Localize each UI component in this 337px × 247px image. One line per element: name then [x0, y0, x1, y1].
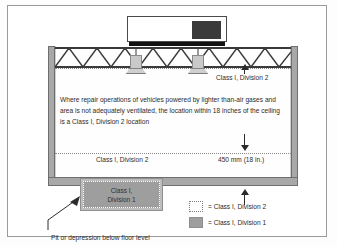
dimension-callout: 450 mm (18 in.) [218, 156, 264, 163]
ceiling-zone-callout: Class I, Division 2 [216, 74, 268, 81]
figure-frame: Class I, Division 1 Where repair operati… [7, 5, 327, 237]
arrow-up-icon [241, 64, 249, 70]
left-wall [48, 46, 55, 186]
legend-item-division1: = Class I, Division 1 [189, 214, 266, 230]
rooftop-vent-icon [192, 21, 221, 39]
ceiling-zone-boundary-line [55, 68, 291, 69]
legend-item-division2: = Class I, Division 2 [189, 198, 266, 214]
division2-swatch-icon [189, 201, 203, 212]
explanatory-text: Where repair operations of vehicles powe… [60, 94, 282, 127]
pendant-housing [192, 55, 204, 69]
rooftop-unit [127, 16, 227, 42]
pit-note-callout: Pit or depression below floor level [51, 234, 150, 241]
arrow-up-icon [241, 189, 249, 195]
division1-swatch-icon [189, 217, 203, 228]
roof-truss [55, 47, 291, 69]
pit-label-line2: Division 1 [107, 196, 135, 203]
legend: = Class I, Division 2 = Class I, Divisio… [189, 198, 266, 230]
pendant-housing [130, 55, 142, 69]
pit-division1-area: Class I, Division 1 [83, 181, 160, 208]
pit-leader-line [46, 194, 86, 232]
right-wall [291, 46, 298, 186]
pit-label: Class I, Division 1 [107, 186, 135, 204]
classified-area-figure: Class I, Division 1 Where repair operati… [0, 0, 337, 247]
legend-label-division2: = Class I, Division 2 [208, 203, 266, 210]
leader-arrow-icon [70, 196, 80, 206]
pit-depression: Class I, Division 1 [80, 178, 163, 211]
floor-zone-boundary-line [55, 153, 291, 154]
floor-zone-callout: Class I, Division 2 [96, 156, 148, 163]
legend-label-division1: = Class I, Division 1 [208, 219, 266, 226]
pit-label-line1: Class I, [111, 187, 133, 194]
truss-svg [55, 47, 291, 69]
arrow-down-icon [241, 145, 249, 151]
